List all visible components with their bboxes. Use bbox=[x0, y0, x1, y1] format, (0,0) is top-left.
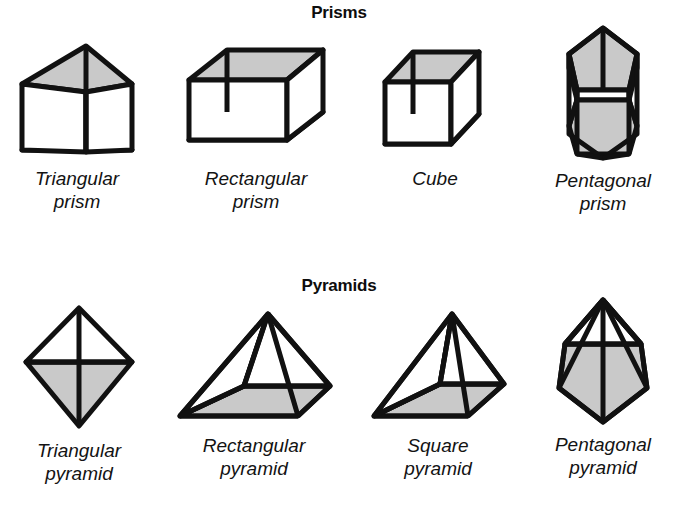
cube-icon bbox=[375, 40, 495, 158]
rectangular-prism-icon bbox=[181, 40, 331, 158]
pyramids-heading: Pyramids bbox=[0, 276, 678, 296]
caption-line-2: prism bbox=[528, 193, 678, 216]
caption-line-1: Triangular bbox=[2, 168, 152, 191]
caption-line-2: pyramid bbox=[360, 458, 516, 481]
caption-line-1: Square bbox=[360, 435, 516, 458]
caption-triangular-prism: Triangular prism bbox=[2, 168, 152, 213]
caption-pentagonal-pyramid: Pentagonal pyramid bbox=[528, 434, 678, 479]
caption-rectangular-pyramid: Rectangular pyramid bbox=[166, 435, 342, 480]
figure-pentagonal-pyramid: Pentagonal pyramid bbox=[528, 296, 678, 479]
rectangular-pyramid-icon bbox=[172, 304, 337, 429]
triangular-prism-icon bbox=[12, 40, 142, 158]
caption-line-2: pyramid bbox=[166, 458, 342, 481]
caption-line-2: prism bbox=[2, 191, 152, 214]
caption-triangular-pyramid: Triangular pyramid bbox=[4, 440, 154, 485]
prisms-heading: Prisms bbox=[0, 3, 678, 23]
figure-rectangular-pyramid: Rectangular pyramid bbox=[166, 304, 342, 480]
caption-line-1: Rectangular bbox=[166, 435, 342, 458]
caption-line-1: Cube bbox=[360, 168, 510, 191]
caption-line-2: pyramid bbox=[528, 457, 678, 480]
caption-line-1: Rectangular bbox=[172, 168, 340, 191]
caption-line-1: Pentagonal bbox=[528, 434, 678, 457]
caption-rectangular-prism: Rectangular prism bbox=[172, 168, 340, 213]
figure-rectangular-prism: Rectangular prism bbox=[172, 40, 340, 213]
caption-line-2: pyramid bbox=[4, 463, 154, 486]
caption-square-pyramid: Square pyramid bbox=[360, 435, 516, 480]
figure-triangular-pyramid: Triangular pyramid bbox=[4, 302, 154, 485]
triangular-pyramid-icon bbox=[16, 302, 142, 432]
caption-line-1: Pentagonal bbox=[528, 170, 678, 193]
caption-cube: Cube bbox=[360, 168, 510, 191]
figure-cube: Cube bbox=[360, 40, 510, 191]
figure-pentagonal-prism: Pentagonal prism bbox=[528, 22, 678, 215]
pentagonal-pyramid-icon bbox=[543, 296, 663, 428]
prisms-section: Prisms Tri bbox=[0, 0, 678, 262]
caption-pentagonal-prism: Pentagonal prism bbox=[528, 170, 678, 215]
diagram-page: Prisms Tri bbox=[0, 0, 678, 525]
figure-triangular-prism: Triangular prism bbox=[2, 40, 152, 213]
caption-line-2: prism bbox=[172, 191, 340, 214]
pentagonal-prism-icon bbox=[543, 22, 663, 162]
pyramids-section: Pyramids Triangular pyramid bbox=[0, 262, 678, 525]
caption-line-1: Triangular bbox=[4, 440, 154, 463]
square-pyramid-icon bbox=[366, 304, 511, 429]
figure-square-pyramid: Square pyramid bbox=[360, 304, 516, 480]
